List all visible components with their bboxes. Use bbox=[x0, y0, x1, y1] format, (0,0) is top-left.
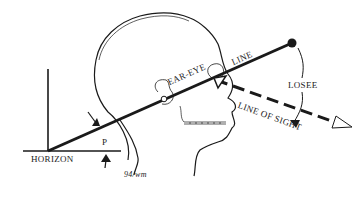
line-of-sight-arrowhead bbox=[332, 116, 352, 128]
head-outline-inner bbox=[99, 16, 189, 60]
diagram-canvas bbox=[0, 0, 352, 199]
p-arrow-top-shaft bbox=[88, 112, 96, 123]
horizon-label: HORIZON bbox=[31, 154, 74, 164]
neck-line bbox=[120, 120, 138, 175]
p-arrow-bottom-head bbox=[101, 154, 111, 162]
ear-eye-line bbox=[48, 43, 292, 151]
p-label: P bbox=[102, 137, 107, 147]
line-endpoint-dot bbox=[288, 39, 297, 48]
jaw-outline bbox=[180, 106, 226, 124]
losee-label: LOSEE bbox=[288, 80, 318, 90]
ear-point bbox=[161, 96, 167, 102]
artist-signature: 94/wm bbox=[124, 170, 147, 179]
